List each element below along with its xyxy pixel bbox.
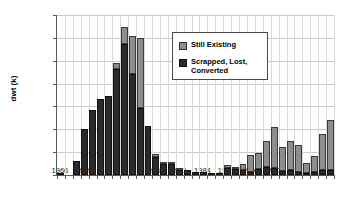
x-tick-mark [334, 175, 335, 179]
bar-segment-scrapped [224, 168, 231, 175]
bar-segment-scrapped [311, 172, 318, 175]
bar-segment-scrapped [287, 170, 294, 175]
bar-segment-scrapped [129, 74, 136, 175]
bar-1975 [129, 36, 136, 175]
bar-segment-scrapped [263, 167, 270, 175]
bar-segment-scrapped [168, 164, 175, 175]
bar-segment-scrapped [200, 172, 207, 175]
bar-segment-still-existing [247, 155, 254, 172]
x-tick-mark [65, 175, 66, 179]
bar-segment-scrapped [89, 110, 96, 175]
bar-segment-still-existing [232, 167, 239, 169]
bar-1988 [232, 168, 239, 175]
gridline-vertical [168, 15, 169, 175]
bar-1971 [97, 99, 104, 175]
x-tick-mark [136, 175, 137, 179]
bar-segment-scrapped [319, 170, 326, 175]
bar-segment-scrapped [271, 168, 278, 175]
bar-segment-scrapped [160, 164, 167, 175]
bar-segment-scrapped [279, 171, 286, 175]
bar-segment-still-existing [152, 154, 159, 158]
x-tick-mark [287, 175, 288, 179]
bar-segment-scrapped [247, 172, 254, 175]
bar-1994 [279, 147, 286, 175]
bar-segment-still-existing [271, 127, 278, 167]
y-tick-mark [53, 84, 57, 85]
bar-1983 [192, 172, 199, 175]
x-tick-mark [144, 175, 145, 179]
gridline-vertical [152, 15, 153, 175]
bar-segment-scrapped [145, 126, 152, 175]
x-tick-mark [120, 175, 121, 179]
bar-segment-still-existing [168, 162, 175, 164]
bar-1980 [168, 164, 175, 175]
x-tick-mark [128, 175, 129, 179]
x-tick-mark [57, 175, 58, 179]
bar-segment-scrapped [57, 173, 64, 175]
x-tick-mark [279, 175, 280, 179]
bar-segment-still-existing [113, 63, 120, 68]
y-tick-mark [53, 106, 57, 107]
bar-1997 [303, 163, 310, 175]
bar-1966 [57, 174, 64, 175]
y-axis-title: dwt (k) [9, 59, 18, 119]
bar-1999 [319, 134, 326, 175]
x-tick-mark [326, 175, 327, 179]
gridline-vertical [334, 15, 335, 175]
bar-1993 [271, 127, 278, 175]
bar-1986 [216, 173, 223, 175]
x-tick-mark [97, 175, 98, 179]
bar-segment-scrapped [81, 129, 88, 175]
bar-segment-still-existing [121, 27, 128, 43]
gridline-vertical [160, 15, 161, 175]
bar-segment-scrapped [208, 173, 215, 175]
bar-segment-still-existing [287, 141, 294, 170]
gridline-vertical [73, 15, 74, 175]
bar-segment-scrapped [137, 108, 144, 175]
y-tick-mark [53, 61, 57, 62]
bar-1977 [145, 126, 152, 175]
chart-legend: Still Existing Scrapped, Lost, Converted [172, 32, 268, 80]
bar-1982 [184, 170, 191, 175]
x-tick-mark [215, 175, 216, 179]
bar-1991 [255, 153, 262, 175]
bar-segment-still-existing [295, 145, 302, 172]
bar-1990 [247, 155, 254, 175]
bar-segment-scrapped [152, 157, 159, 175]
bar-segment-scrapped [121, 44, 128, 175]
legend-item-still-existing: Still Existing [179, 40, 236, 50]
bar-1968 [73, 161, 80, 175]
x-tick-mark [192, 175, 193, 179]
x-tick-mark [271, 175, 272, 179]
bar-1998 [311, 156, 318, 175]
bar-1987 [224, 165, 231, 176]
bar-1976 [137, 38, 144, 175]
bar-1969 [81, 129, 88, 175]
bar-1972 [105, 96, 112, 175]
x-tick-mark [73, 175, 74, 179]
x-tick-mark [223, 175, 224, 179]
x-tick-mark [199, 175, 200, 179]
legend-item-scrapped-lost-converted: Scrapped, Lost, Converted [179, 57, 247, 75]
bar-1989 [240, 164, 247, 175]
x-tick-mark [207, 175, 208, 179]
bar-segment-scrapped [216, 173, 223, 175]
bar-segment-scrapped [240, 170, 247, 175]
bar-segment-still-existing [137, 38, 144, 107]
x-tick-mark [247, 175, 248, 179]
bar-segment-still-existing [303, 163, 310, 173]
bar-segment-scrapped [105, 96, 112, 175]
chart-container: dwt (k) 05,00010,00015,00020,00025,00030… [0, 0, 339, 203]
x-tick-mark [231, 175, 232, 179]
x-tick-mark [263, 175, 264, 179]
gridline-vertical [65, 15, 66, 175]
bar-1970 [89, 110, 96, 175]
x-tick-mark [318, 175, 319, 179]
y-tick-mark [53, 129, 57, 130]
bar-segment-still-existing [240, 164, 247, 171]
bar-1995 [287, 141, 294, 175]
bar-segment-still-existing [255, 153, 262, 169]
bar-segment-still-existing [129, 36, 136, 74]
bar-segment-still-existing [224, 165, 231, 169]
bar-2000 [327, 120, 334, 175]
